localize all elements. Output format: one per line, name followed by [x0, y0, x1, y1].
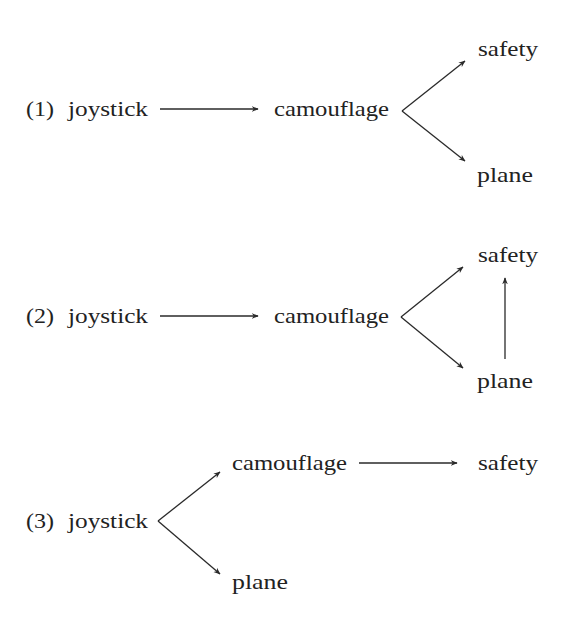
diagram-canvas: (1) joystick camouflage safety plane (2)… [0, 0, 569, 626]
arrow-camouflage-to-plane [401, 317, 463, 368]
diagram-1: (1) joystick camouflage safety plane [26, 36, 538, 187]
node-safety: safety [478, 242, 538, 267]
node-plane: plane [477, 368, 533, 393]
node-safety: safety [478, 36, 538, 61]
node-camouflage: camouflage [232, 450, 347, 475]
node-camouflage: camouflage [274, 96, 389, 121]
diagram-number: (1) [26, 96, 54, 121]
arrow-joystick-to-plane [158, 521, 220, 574]
node-joystick: joystick [67, 508, 148, 533]
diagram-number: (3) [26, 508, 54, 533]
diagram-3: (3) joystick camouflage safety plane [26, 450, 538, 594]
arrow-joystick-to-camouflage [158, 472, 220, 521]
diagram-2: (2) joystick camouflage safety plane [26, 242, 538, 393]
arrow-camouflage-to-safety [401, 267, 463, 317]
arrow-camouflage-to-plane [402, 111, 465, 161]
node-camouflage: camouflage [274, 303, 389, 328]
diagram-number: (2) [26, 303, 54, 328]
node-safety: safety [478, 450, 538, 475]
node-plane: plane [232, 569, 288, 594]
node-plane: plane [477, 162, 533, 187]
arrow-camouflage-to-safety [402, 61, 465, 111]
node-joystick: joystick [67, 96, 148, 121]
node-joystick: joystick [67, 303, 148, 328]
